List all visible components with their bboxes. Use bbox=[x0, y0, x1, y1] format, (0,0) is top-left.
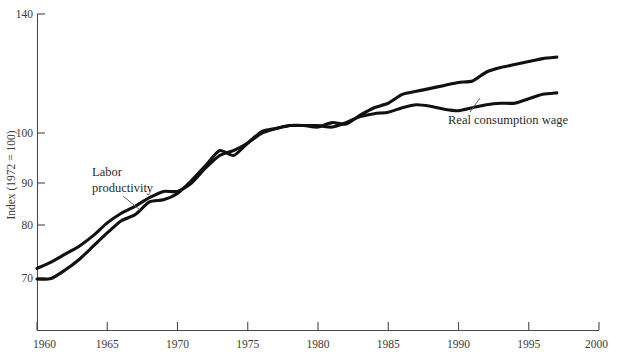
x-tick-label: 1995 bbox=[517, 338, 540, 350]
chart-svg: 708090100140 Index (1972 = 100) 19601965… bbox=[0, 0, 617, 363]
x-tick-label: 1970 bbox=[166, 338, 189, 350]
x-tick-label: 1980 bbox=[307, 338, 330, 350]
y-tick-label: 80 bbox=[22, 219, 34, 231]
x-tick-label: 1990 bbox=[447, 338, 470, 350]
x-tick-label: 2000 bbox=[585, 338, 608, 350]
labor-productivity-label-line1: Labor bbox=[92, 165, 123, 179]
labor-productivity-label-line2: productivity bbox=[92, 181, 154, 195]
x-tick-label: 1975 bbox=[236, 338, 259, 350]
y-tick-label: 90 bbox=[22, 177, 34, 189]
x-tick-label: 1985 bbox=[377, 338, 400, 350]
chart-figure: 708090100140 Index (1972 = 100) 19601965… bbox=[0, 0, 617, 363]
y-tick-label: 70 bbox=[22, 272, 34, 284]
y-tick-label: 140 bbox=[16, 8, 34, 20]
y-axis-title: Index (1972 = 100) bbox=[5, 130, 18, 219]
x-tick-label: 1960 bbox=[33, 338, 56, 350]
real-consumption-wage-label: Real consumption wage bbox=[448, 113, 569, 127]
y-tick-label: 100 bbox=[16, 127, 34, 139]
x-tick-label: 1965 bbox=[96, 338, 119, 350]
